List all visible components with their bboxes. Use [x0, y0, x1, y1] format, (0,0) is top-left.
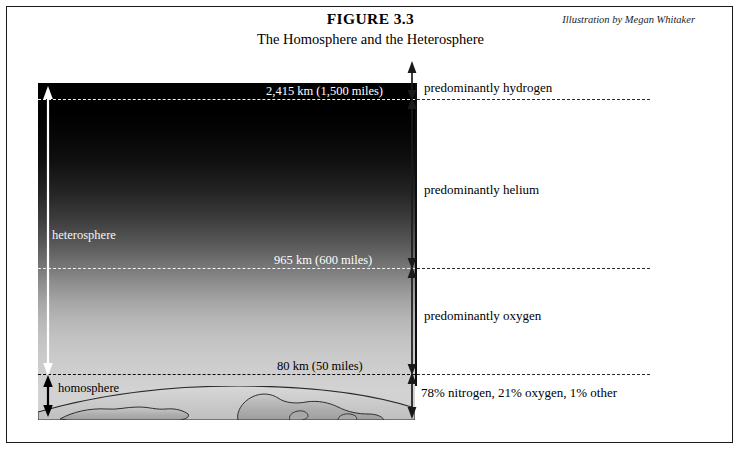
- composition-label-oxygen: predominantly oxygen: [424, 308, 541, 324]
- altitude-label-80km: 80 km (50 miles): [277, 359, 363, 374]
- figure-canvas: FIGURE 3.3 The Homosphere and the Hetero…: [0, 0, 741, 451]
- composition-label-hydrogen: predominantly hydrogen: [424, 80, 552, 96]
- illustration-credit: Illustration by Megan Whitaker: [562, 14, 695, 25]
- region-label-heterosphere: heterosphere: [52, 228, 116, 243]
- boundary-line-965km-inner: [38, 268, 415, 269]
- figure-caption: The Homosphere and the Heterosphere: [0, 31, 741, 48]
- altitude-label-2415km: 2,415 km (1,500 miles): [266, 84, 383, 99]
- composition-label-helium: predominantly helium: [424, 182, 539, 198]
- composition-label-homosphere-mix: 78% nitrogen, 21% oxygen, 1% other: [421, 385, 617, 401]
- altitude-label-965km: 965 km (600 miles): [274, 253, 372, 268]
- boundary-line-2415km-inner: [38, 99, 415, 100]
- boundary-line-80km-inner: [38, 374, 415, 375]
- panel-right-edge: [415, 83, 417, 386]
- boundary-line-2415km-outer: [417, 99, 650, 100]
- boundary-line-80km-outer: [417, 374, 650, 375]
- region-label-homosphere: homosphere: [58, 381, 119, 396]
- boundary-line-965km-outer: [417, 268, 650, 269]
